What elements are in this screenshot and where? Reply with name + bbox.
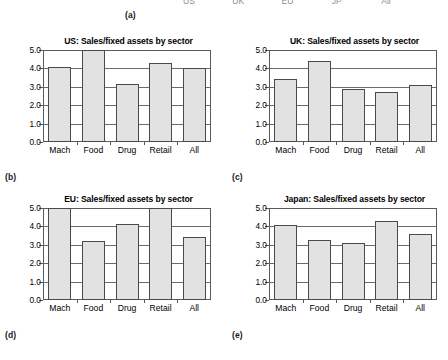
y-tick-label: 4.0: [255, 64, 267, 72]
chart-panel-c: UK: Sales/fixed assets by sector0.01.02.…: [248, 36, 448, 168]
bar-series: [269, 50, 437, 142]
bar-series: [43, 208, 211, 300]
bar: [183, 68, 206, 142]
bar: [149, 63, 172, 142]
x-tick-label: Mach: [49, 303, 70, 313]
bar: [274, 79, 297, 142]
y-tick-label: 0.0: [29, 296, 41, 304]
bar: [308, 240, 331, 300]
x-tick-label: Retail: [376, 145, 398, 155]
panel-a-tick-label: All: [367, 0, 405, 6]
y-tick-label: 1.0: [255, 278, 267, 286]
panel-a-clipped-tick-labels: US UK EU JP All: [170, 0, 405, 6]
y-axis-labels: 0.01.02.03.04.05.0: [22, 208, 41, 300]
chart-panel-d: EU: Sales/fixed assets by sector0.01.02.…: [22, 194, 235, 326]
bar: [342, 243, 365, 300]
chart-title: EU: Sales/fixed assets by sector: [22, 194, 235, 204]
chart-title: US: Sales/fixed assets by sector: [22, 36, 235, 46]
x-tick-label: Drug: [344, 303, 363, 313]
panel-tag-c: (c): [232, 172, 243, 182]
y-tick-label: 2.0: [29, 101, 41, 109]
panel-tag-d: (d): [5, 330, 16, 340]
y-tick-label: 3.0: [255, 83, 267, 91]
y-tick-label: 5.0: [255, 46, 267, 54]
x-axis-labels: MachFoodDrugRetailAll: [43, 145, 211, 159]
chart-title: Japan: Sales/fixed assets by sector: [248, 194, 448, 204]
bar: [375, 92, 398, 142]
x-tick-label: Food: [310, 303, 330, 313]
x-tick-label: All: [189, 145, 199, 155]
x-axis-labels: MachFoodDrugRetailAll: [269, 145, 437, 159]
bar: [116, 224, 139, 300]
bar: [82, 241, 105, 300]
x-tick-label: Food: [84, 303, 104, 313]
bar: [274, 225, 297, 300]
y-tick-label: 4.0: [29, 222, 41, 230]
plot-area: 0.01.02.03.04.05.0MachFoodDrugRetailAll: [22, 208, 235, 326]
x-tick-label: Drug: [344, 145, 363, 155]
panel-a-tick-label: EU: [269, 0, 307, 6]
panel-a-tick-label: UK: [219, 0, 257, 6]
y-tick-label: 0.0: [29, 138, 41, 146]
bar: [308, 61, 331, 142]
bar: [116, 84, 139, 142]
y-tick-label: 1.0: [29, 120, 41, 128]
plot-area: 0.01.02.03.04.05.0MachFoodDrugRetailAll: [248, 50, 448, 168]
y-tick-label: 4.0: [29, 64, 41, 72]
x-tick-label: Mach: [275, 303, 296, 313]
y-axis-labels: 0.01.02.03.04.05.0: [248, 208, 267, 300]
y-tick-label: 2.0: [29, 259, 41, 267]
y-tick-label: 2.0: [255, 259, 267, 267]
x-tick-label: Food: [310, 145, 330, 155]
bar: [375, 221, 398, 300]
bar: [48, 208, 71, 300]
panel-tag-b: (b): [5, 172, 16, 182]
y-tick-label: 5.0: [29, 204, 41, 212]
panel-a-tick-label: US: [170, 0, 208, 6]
bar: [342, 89, 365, 142]
bar-series: [269, 208, 437, 300]
chart-panel-e: Japan: Sales/fixed assets by sector0.01.…: [248, 194, 448, 326]
x-axis-labels: MachFoodDrugRetailAll: [269, 303, 437, 317]
bar: [82, 50, 105, 142]
x-tick-label: All: [415, 303, 425, 313]
bar: [409, 85, 432, 142]
y-tick-label: 4.0: [255, 222, 267, 230]
x-tick-label: All: [415, 145, 425, 155]
plot-area: 0.01.02.03.04.05.0MachFoodDrugRetailAll: [22, 50, 235, 168]
bar-series: [43, 50, 211, 142]
bar: [183, 237, 206, 300]
y-tick-label: 1.0: [255, 120, 267, 128]
y-tick-label: 5.0: [29, 46, 41, 54]
x-tick-label: Mach: [275, 145, 296, 155]
bar: [48, 67, 71, 142]
x-tick-label: Drug: [118, 303, 137, 313]
x-tick-label: All: [189, 303, 199, 313]
panel-a-tick-label: JP: [318, 0, 356, 6]
y-tick-label: 2.0: [255, 101, 267, 109]
panel-tag-e: (e): [232, 330, 243, 340]
x-tick-label: Retail: [150, 303, 172, 313]
bar: [409, 234, 432, 300]
chart-title: UK: Sales/fixed assets by sector: [248, 36, 448, 46]
panel-tag-a: (a): [125, 10, 136, 20]
panel-a-clipped: US UK EU JP All (a): [0, 0, 448, 22]
chart-panel-b: US: Sales/fixed assets by sector0.01.02.…: [22, 36, 235, 168]
bar: [149, 208, 172, 300]
x-tick-label: Food: [84, 145, 104, 155]
y-tick-label: 0.0: [255, 138, 267, 146]
x-tick-label: Mach: [49, 145, 70, 155]
y-tick-label: 5.0: [255, 204, 267, 212]
y-tick-label: 3.0: [255, 241, 267, 249]
x-tick-label: Retail: [376, 303, 398, 313]
x-axis-labels: MachFoodDrugRetailAll: [43, 303, 211, 317]
y-tick-label: 0.0: [255, 296, 267, 304]
y-axis-labels: 0.01.02.03.04.05.0: [22, 50, 41, 142]
y-tick-label: 3.0: [29, 241, 41, 249]
y-tick-label: 3.0: [29, 83, 41, 91]
x-tick-label: Retail: [150, 145, 172, 155]
plot-area: 0.01.02.03.04.05.0MachFoodDrugRetailAll: [248, 208, 448, 326]
x-tick-label: Drug: [118, 145, 137, 155]
y-axis-labels: 0.01.02.03.04.05.0: [248, 50, 267, 142]
y-tick-label: 1.0: [29, 278, 41, 286]
